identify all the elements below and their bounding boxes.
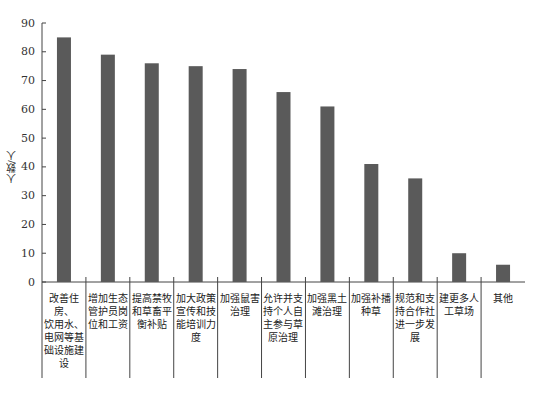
x-category-label: 允许并支持个人自主参与草原治理 <box>262 292 306 344</box>
x-category-label-line: 能培训力 <box>174 318 218 331</box>
x-category-label-line: 建更多人 <box>437 292 481 305</box>
x-category-label-line: 持合作社 <box>393 305 437 318</box>
x-category-label-line: 位和工资 <box>86 318 130 331</box>
bar <box>233 69 247 282</box>
x-category-label-line: 提高禁牧 <box>130 292 174 305</box>
x-category-label: 加强鼠害治理 <box>218 292 262 318</box>
x-category-label-line: 加强黑土 <box>305 292 349 305</box>
x-category-label-line: 持个人自 <box>262 305 306 318</box>
y-tick-label: 90 <box>21 17 35 30</box>
bar <box>101 55 115 282</box>
x-category-label-line: 加大政策 <box>174 292 218 305</box>
x-category-label: 提高禁牧和草畜平衡补贴 <box>130 292 174 331</box>
x-category-label-line: 加强鼠害 <box>218 292 262 305</box>
bar <box>57 37 71 282</box>
y-tick-label: 20 <box>21 218 35 231</box>
bar <box>364 164 378 282</box>
bar <box>408 178 422 282</box>
x-category-label-line: 度 <box>174 331 218 344</box>
x-category-label-line: 工草场 <box>437 305 481 318</box>
y-axis-title: 人数/人 <box>6 150 20 183</box>
bar <box>277 92 291 282</box>
y-tick-label: 70 <box>21 74 35 87</box>
bar <box>145 63 159 282</box>
bar <box>189 66 203 282</box>
x-category-label-line: 主参与草 <box>262 318 306 331</box>
x-category-label: 规范和支持合作社进一步发展 <box>393 292 437 344</box>
bar-chart: 0102030405060708090 人数/人 改善住房、饮用水、电网等基础设… <box>0 0 537 397</box>
x-category-label: 改善住房、饮用水、电网等基础设施建设 <box>42 292 86 370</box>
y-tick-label: 60 <box>21 103 35 116</box>
y-tick-label: 50 <box>21 132 35 145</box>
x-category-label: 建更多人工草场 <box>437 292 481 318</box>
y-tick-label: 0 <box>28 276 35 289</box>
x-category-label-line: 增加生态 <box>86 292 130 305</box>
y-tick-label: 40 <box>21 160 35 173</box>
x-category-label-line: 展 <box>393 331 437 344</box>
x-category-label: 增加生态管护员岗位和工资 <box>86 292 130 331</box>
x-category-label-line: 改善住房、 <box>42 292 86 318</box>
x-category-label-line: 规范和支 <box>393 292 437 305</box>
x-category-label-line: 衡补贴 <box>130 318 174 331</box>
x-category-label-line: 滩治理 <box>305 305 349 318</box>
x-category-label: 其他 <box>481 292 525 305</box>
x-category-label-line: 电网等基 <box>42 331 86 344</box>
x-category-label-line: 设 <box>42 357 86 370</box>
y-tick-label: 80 <box>21 45 35 58</box>
x-category-label-line: 管护员岗 <box>86 305 130 318</box>
bar <box>452 253 466 282</box>
x-category-label-line: 和草畜平 <box>130 305 174 318</box>
y-tick-label: 10 <box>21 247 35 260</box>
x-category-label-line: 饮用水、 <box>42 318 86 331</box>
x-category-label-line: 础设施建 <box>42 344 86 357</box>
x-category-label-line: 治理 <box>218 305 262 318</box>
x-category-label-line: 其他 <box>481 292 525 305</box>
bar <box>320 106 334 282</box>
x-category-label-line: 进一步发 <box>393 318 437 331</box>
x-category-label: 加强黑土滩治理 <box>305 292 349 318</box>
x-category-label-line: 允许并支 <box>262 292 306 305</box>
x-category-label-line: 加强补播 <box>349 292 393 305</box>
x-category-label-line: 原治理 <box>262 331 306 344</box>
bar <box>496 265 510 282</box>
x-category-label-line: 种草 <box>349 305 393 318</box>
x-category-label-line: 宣传和技 <box>174 305 218 318</box>
x-category-label: 加大政策宣传和技能培训力度 <box>174 292 218 344</box>
y-tick-label: 30 <box>21 189 35 202</box>
x-category-label: 加强补播种草 <box>349 292 393 318</box>
